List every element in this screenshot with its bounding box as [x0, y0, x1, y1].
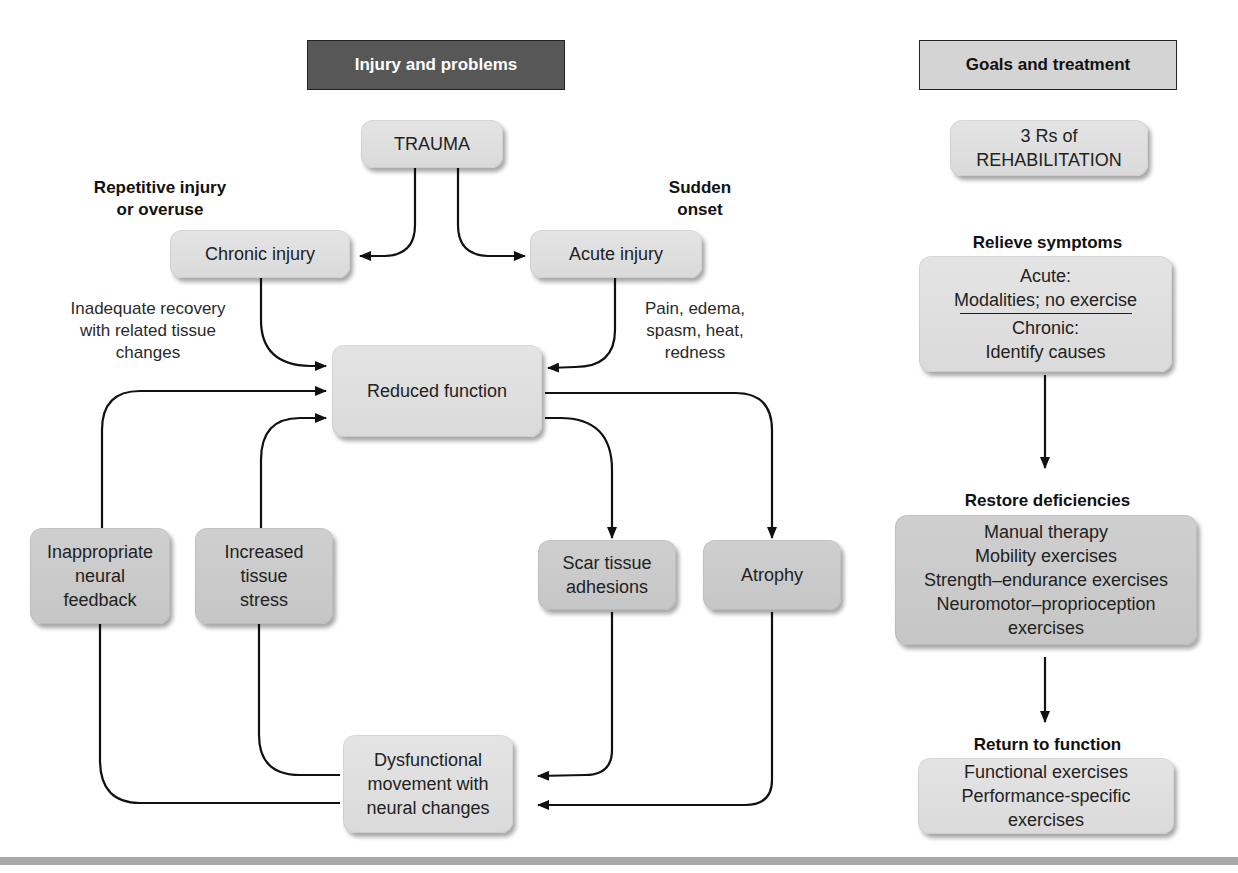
node-reduced-function-label: Reduced function — [367, 379, 507, 403]
heading-return-to-function: Return to function — [920, 734, 1175, 756]
node-trauma-label: TRAUMA — [394, 132, 470, 156]
label-line: Sudden — [640, 177, 760, 199]
node-line: Scar tissue — [562, 551, 651, 575]
node-line: REHABILITATION — [976, 148, 1121, 172]
bottom-rule — [0, 857, 1238, 865]
label-line: Repetitive injury — [60, 177, 260, 199]
goals-treatment-header: Goals and treatment — [919, 40, 1177, 90]
node-atrophy: Atrophy — [703, 540, 841, 610]
label-sudden-onset: Sudden onset — [640, 177, 760, 221]
node-line: Strength–endurance exercises — [924, 568, 1168, 592]
label-acute-note: Pain, edema, spasm, heat, redness — [625, 298, 765, 364]
node-line: Increased — [224, 540, 303, 564]
node-line: tissue — [240, 564, 287, 588]
node-trauma: TRAUMA — [361, 120, 503, 168]
label-line: redness — [625, 342, 765, 364]
node-inappropriate-neural-feedback: Inappropriate neural feedback — [30, 528, 170, 624]
node-chronic-injury: Chronic injury — [170, 230, 350, 278]
node-line: Functional exercises — [964, 760, 1128, 784]
node-line: feedback — [63, 588, 136, 612]
node-3rs-rehabilitation: 3 Rs of REHABILITATION — [950, 120, 1148, 176]
node-chronic-injury-label: Chronic injury — [205, 242, 315, 266]
node-line: movement with — [367, 772, 488, 796]
label-line: spasm, heat, — [625, 320, 765, 342]
label-repetitive-injury: Repetitive injury or overuse — [60, 177, 260, 221]
node-line: Inappropriate — [47, 540, 153, 564]
label-line: changes — [48, 342, 248, 364]
node-acute-injury-label: Acute injury — [569, 242, 663, 266]
node-return-to-function: Functional exercises Performance-specifi… — [918, 758, 1174, 834]
node-scar-tissue-adhesions: Scar tissue adhesions — [538, 540, 676, 610]
label-line: Inadequate recovery — [48, 298, 248, 320]
node-line: Manual therapy — [984, 520, 1108, 544]
label-line: Pain, edema, — [625, 298, 765, 320]
label-line: onset — [640, 199, 760, 221]
label-line: or overuse — [60, 199, 260, 221]
injury-problems-header: Injury and problems — [307, 40, 565, 90]
node-restore-deficiencies: Manual therapy Mobility exercises Streng… — [895, 515, 1197, 645]
node-line: exercises — [1008, 808, 1084, 832]
label-chronic-note: Inadequate recovery with related tissue … — [48, 298, 248, 364]
node-line: adhesions — [566, 575, 648, 599]
node-line: Mobility exercises — [975, 544, 1117, 568]
node-relieve-symptoms: Acute: Modalities; no exercise Chronic: … — [919, 256, 1172, 372]
divider — [960, 313, 1132, 314]
node-line: Neuromotor–proprioception — [936, 592, 1155, 616]
node-line: Performance-specific — [961, 784, 1130, 808]
node-line: Acute: — [1020, 264, 1071, 288]
node-line: Identify causes — [985, 340, 1105, 364]
heading-relieve-symptoms: Relieve symptoms — [920, 232, 1175, 254]
node-dysfunctional-movement: Dysfunctional movement with neural chang… — [343, 735, 513, 833]
label-line: with related tissue — [48, 320, 248, 342]
node-atrophy-label: Atrophy — [741, 563, 803, 587]
heading-restore-deficiencies: Restore deficiencies — [920, 490, 1175, 512]
node-line: stress — [240, 588, 288, 612]
node-line: Dysfunctional — [374, 748, 482, 772]
node-line: neural changes — [366, 796, 489, 820]
node-reduced-function: Reduced function — [332, 345, 542, 437]
node-line: Chronic: — [1012, 316, 1079, 340]
node-line: neural — [75, 564, 125, 588]
node-line: Modalities; no exercise — [954, 288, 1137, 312]
node-acute-injury: Acute injury — [530, 230, 702, 278]
node-increased-tissue-stress: Increased tissue stress — [195, 528, 333, 624]
node-line: 3 Rs of — [1020, 124, 1077, 148]
node-line: exercises — [1008, 616, 1084, 640]
